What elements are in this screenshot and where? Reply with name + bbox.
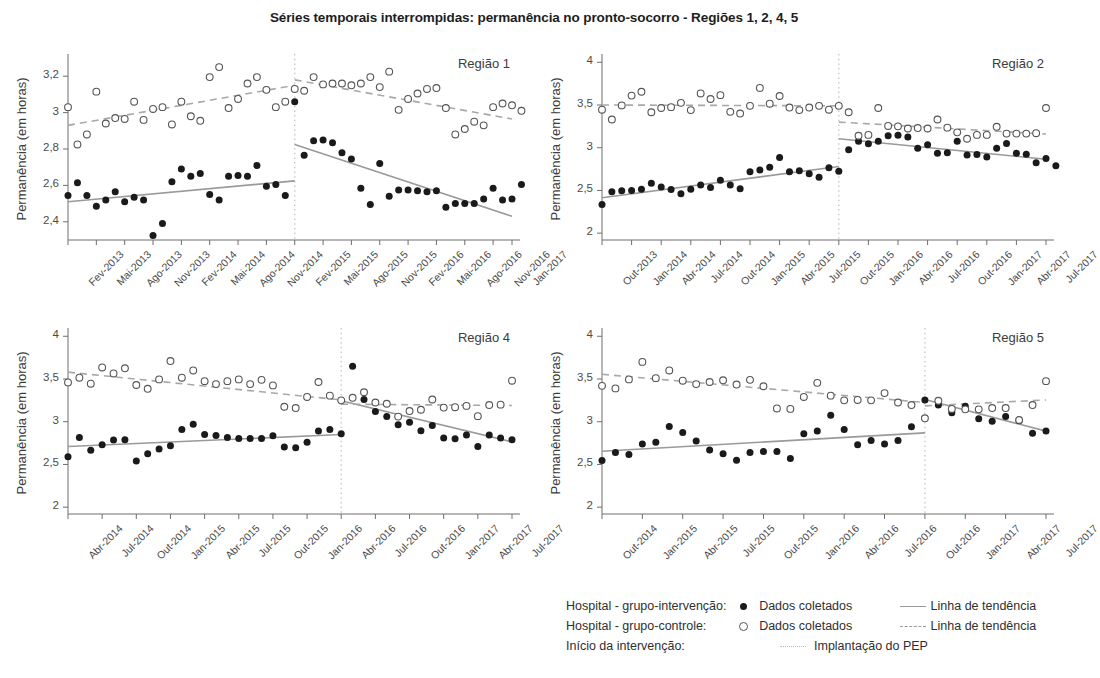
plot-area-regiao-2 bbox=[534, 44, 1068, 312]
data-point-intervencao bbox=[895, 437, 902, 444]
data-point-controle bbox=[786, 104, 793, 111]
data-point-intervencao bbox=[1043, 428, 1050, 435]
data-point-intervencao bbox=[315, 428, 322, 435]
data-point-intervencao bbox=[121, 198, 128, 205]
data-point-intervencao bbox=[625, 451, 632, 458]
data-point-intervencao bbox=[326, 426, 333, 433]
data-point-intervencao bbox=[131, 194, 138, 201]
data-point-intervencao bbox=[509, 436, 516, 443]
data-point-controle bbox=[216, 64, 223, 71]
data-point-controle bbox=[993, 123, 1000, 130]
chart-panel-regiao-1: 2,42,62,833,2Fev-2013Mai-2013Ago-2013Nov… bbox=[0, 44, 534, 312]
data-point-controle bbox=[65, 104, 72, 111]
data-point-controle bbox=[418, 406, 425, 413]
data-point-intervencao bbox=[338, 149, 345, 156]
data-point-controle bbox=[1043, 105, 1050, 112]
panel-title-regiao-1: Região 1 bbox=[458, 56, 510, 71]
data-point-intervencao bbox=[471, 200, 478, 207]
data-point-intervencao bbox=[348, 156, 355, 163]
chart-panel-regiao-2: 22,533,54Out-2013Jan-2014Abr-2014Jul-201… bbox=[534, 44, 1068, 312]
data-point-intervencao bbox=[975, 415, 982, 422]
data-point-intervencao bbox=[213, 432, 220, 439]
data-point-intervencao bbox=[639, 440, 646, 447]
data-point-intervencao bbox=[168, 178, 175, 185]
data-point-controle bbox=[806, 104, 813, 111]
data-point-intervencao bbox=[845, 146, 852, 153]
legend-dotted-line-icon bbox=[780, 646, 814, 647]
data-point-intervencao bbox=[599, 457, 606, 464]
y-axis-label: Permanência (em horas) bbox=[548, 58, 563, 240]
data-point-intervencao bbox=[954, 138, 961, 145]
data-point-intervencao bbox=[509, 196, 516, 203]
data-point-controle bbox=[962, 406, 969, 413]
data-point-controle bbox=[178, 98, 185, 105]
data-point-controle bbox=[854, 397, 861, 404]
data-point-controle bbox=[301, 87, 308, 94]
data-point-controle bbox=[948, 406, 955, 413]
data-point-controle bbox=[235, 376, 242, 383]
figure-legend: Hospital - grupo-intervenção: Dados cole… bbox=[566, 596, 1066, 656]
data-point-controle bbox=[497, 401, 504, 408]
data-point-intervencao bbox=[429, 422, 436, 429]
data-point-intervencao bbox=[201, 431, 208, 438]
data-point-intervencao bbox=[727, 181, 734, 188]
legend-dashed-line-icon bbox=[895, 626, 931, 627]
data-point-controle bbox=[83, 131, 90, 138]
data-point-intervencao bbox=[796, 167, 803, 174]
data-point-controle bbox=[206, 74, 213, 81]
data-point-controle bbox=[225, 105, 232, 112]
data-point-intervencao bbox=[658, 184, 665, 191]
data-point-intervencao bbox=[841, 426, 848, 433]
data-point-controle bbox=[167, 358, 174, 365]
data-point-controle bbox=[796, 107, 803, 114]
data-point-controle bbox=[76, 374, 83, 381]
legend-marker-filled-circle-icon bbox=[728, 603, 759, 610]
data-point-controle bbox=[93, 88, 100, 95]
data-point-controle bbox=[509, 102, 516, 109]
data-point-controle bbox=[518, 107, 525, 114]
data-point-controle bbox=[424, 86, 431, 93]
panel-title-regiao-5: Região 5 bbox=[992, 330, 1044, 345]
data-point-controle bbox=[707, 96, 714, 103]
data-point-controle bbox=[826, 106, 833, 113]
data-point-intervencao bbox=[486, 431, 493, 438]
data-point-controle bbox=[310, 74, 317, 81]
data-point-intervencao bbox=[423, 188, 430, 195]
data-point-controle bbox=[964, 135, 971, 142]
data-point-intervencao bbox=[150, 232, 157, 239]
data-point-controle bbox=[213, 381, 220, 388]
data-point-intervencao bbox=[310, 137, 317, 144]
data-point-intervencao bbox=[93, 203, 100, 210]
data-point-controle bbox=[668, 104, 675, 111]
data-point-intervencao bbox=[760, 448, 767, 455]
data-point-intervencao bbox=[304, 439, 311, 446]
data-point-intervencao bbox=[292, 444, 299, 451]
data-point-intervencao bbox=[499, 196, 506, 203]
data-point-controle bbox=[1003, 130, 1010, 137]
trend-line-dashed bbox=[925, 400, 1046, 406]
data-point-intervencao bbox=[668, 186, 675, 193]
data-point-intervencao bbox=[1029, 430, 1036, 437]
data-point-intervencao bbox=[895, 132, 902, 139]
data-point-controle bbox=[395, 413, 402, 420]
data-point-intervencao bbox=[993, 145, 1000, 152]
data-point-controle bbox=[626, 376, 633, 383]
data-point-controle bbox=[395, 106, 402, 113]
data-point-controle bbox=[1023, 130, 1030, 137]
data-point-intervencao bbox=[934, 150, 941, 157]
data-point-intervencao bbox=[733, 457, 740, 464]
data-point-controle bbox=[733, 381, 740, 388]
data-point-intervencao bbox=[638, 186, 645, 193]
data-point-controle bbox=[922, 415, 929, 422]
data-point-controle bbox=[774, 405, 781, 412]
data-point-controle bbox=[638, 88, 645, 95]
trend-line-dashed bbox=[295, 80, 512, 119]
data-point-intervencao bbox=[178, 426, 185, 433]
data-point-controle bbox=[908, 402, 915, 409]
data-point-intervencao bbox=[417, 427, 424, 434]
data-point-controle bbox=[628, 92, 635, 99]
data-point-controle bbox=[679, 377, 686, 384]
data-point-controle bbox=[121, 116, 128, 123]
data-point-intervencao bbox=[786, 168, 793, 175]
data-point-intervencao bbox=[395, 421, 402, 428]
